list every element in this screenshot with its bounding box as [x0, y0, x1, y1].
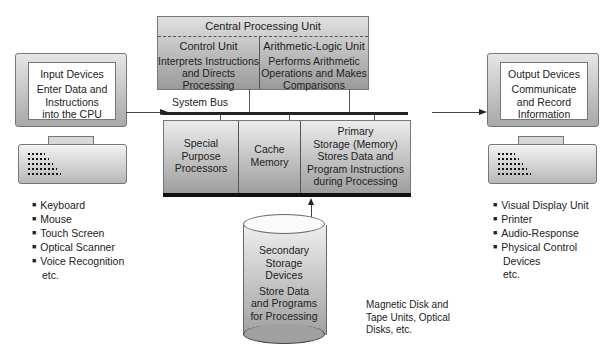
keys-grid-icon [497, 152, 531, 177]
list-continuation: Devices [493, 255, 589, 268]
control-unit-title: Control Unit [158, 40, 259, 52]
input-arrow-line [126, 112, 164, 113]
list-etc: etc. [32, 269, 124, 282]
special-purpose-processors: Special Purpose Processors [164, 137, 238, 175]
storage-examples: Magnetic Disk and Tape Units, Optical Di… [366, 299, 450, 337]
alu-description: Performs Arithmetic Operations and Makes… [260, 55, 368, 91]
text-line: during Processing [301, 175, 410, 188]
secondary-storage-description: Store Data and Programs for Processing [243, 285, 325, 323]
primary-storage: Primary Storage (Memory) Stores Data and… [301, 125, 410, 188]
text-line: Store Data [243, 285, 325, 298]
input-devices-title: Input Devices [29, 68, 115, 80]
desc-line: Enter Data and [29, 83, 115, 96]
desc-line: Communicate [501, 83, 587, 96]
input-screen: Input Devices Enter Data and Instruction… [28, 62, 116, 120]
list-item: Printer [493, 213, 589, 227]
desc-line: Comparisons [260, 79, 368, 91]
text-line: Devices [243, 269, 325, 282]
alu: Arithmetic-Logic Unit Performs Arithmeti… [260, 40, 368, 91]
list-item: Visual Display Unit [493, 199, 589, 213]
text-line: Stores Data and [301, 150, 410, 163]
control-unit: Control Unit Interprets Instructions and… [158, 40, 259, 91]
keys-grid-icon [27, 152, 61, 177]
cpu-bus-connector [349, 89, 350, 112]
desc-line: Information [501, 108, 587, 121]
arrow-right-icon [160, 109, 168, 115]
input-monitor: Input Devices Enter Data and Instruction… [15, 53, 127, 127]
text-line: Primary [301, 125, 410, 138]
arrow-up-icon [308, 198, 314, 205]
list-item: Touch Screen [32, 227, 124, 241]
text-line: Program Instructions [301, 163, 410, 176]
input-devices-list: Keyboard Mouse Touch Screen Optical Scan… [32, 199, 124, 282]
list-etc: etc. [493, 268, 589, 281]
input-keyboard-icon [18, 144, 127, 184]
text-line: Secondary [243, 244, 325, 257]
list-item: Mouse [32, 213, 124, 227]
cylinder-top [243, 214, 325, 234]
desc-line: Performs Arithmetic [260, 55, 368, 67]
cpu-dashed-divider [158, 36, 368, 37]
output-monitor: Output Devices Communicate and Record In… [487, 53, 599, 127]
control-unit-description: Interprets Instructions and Directs Proc… [158, 55, 259, 91]
cylinder-bottom [243, 324, 325, 344]
output-devices-list: Visual Display Unit Printer Audio-Respon… [493, 199, 589, 281]
list-item: Voice Recognition [32, 255, 124, 269]
list-item: Physical Control [493, 241, 589, 255]
list-item: Keyboard [32, 199, 124, 213]
arrow-right-icon [479, 109, 487, 115]
text-line: for Processing [243, 310, 325, 323]
desc-line: Interprets Instructions [158, 55, 259, 67]
list-item: Optical Scanner [32, 241, 124, 255]
text-line: Disks, etc. [366, 324, 450, 337]
text-line: and Programs [243, 297, 325, 310]
desc-line: Instructions [29, 96, 115, 109]
system-bus-line [162, 112, 408, 115]
desc-line: into the CPU [29, 108, 115, 121]
desc-line: and Record [501, 96, 587, 109]
input-devices-description: Enter Data and Instructions into the CPU [29, 83, 115, 121]
system-bus-label: System Bus [172, 96, 228, 108]
text-line: Memory [239, 156, 300, 169]
output-arrow-line [432, 112, 482, 113]
text-line: Cache [239, 143, 300, 156]
desc-line: Operations and Makes [260, 67, 368, 79]
memory-bottom-bar [163, 193, 411, 197]
text-line: Tape Units, Optical [366, 312, 450, 325]
text-line: Magnetic Disk and [366, 299, 450, 312]
memory-row: Special Purpose Processors Cache Memory … [163, 120, 411, 196]
cache-memory: Cache Memory [239, 143, 300, 168]
text-line: Storage [243, 257, 325, 270]
alu-title: Arithmetic-Logic Unit [260, 40, 368, 52]
output-screen: Output Devices Communicate and Record In… [500, 62, 588, 120]
text-line: Storage (Memory) [301, 138, 410, 151]
cpu-block: Central Processing Unit Control Unit Int… [157, 16, 369, 90]
output-keyboard-icon [488, 144, 597, 184]
text-line: Purpose [164, 150, 238, 163]
cpu-title: Central Processing Unit [158, 20, 368, 32]
output-devices-title: Output Devices [501, 68, 587, 80]
cpu-bus-connector [249, 89, 250, 112]
list-item: Audio-Response [493, 227, 589, 241]
text-line: Processors [164, 162, 238, 175]
secondary-storage-label: Secondary Storage Devices Store Data and… [243, 244, 325, 322]
output-devices-description: Communicate and Record Information [501, 83, 587, 121]
desc-line: and Directs Processing [158, 67, 259, 91]
text-line: Special [164, 137, 238, 150]
